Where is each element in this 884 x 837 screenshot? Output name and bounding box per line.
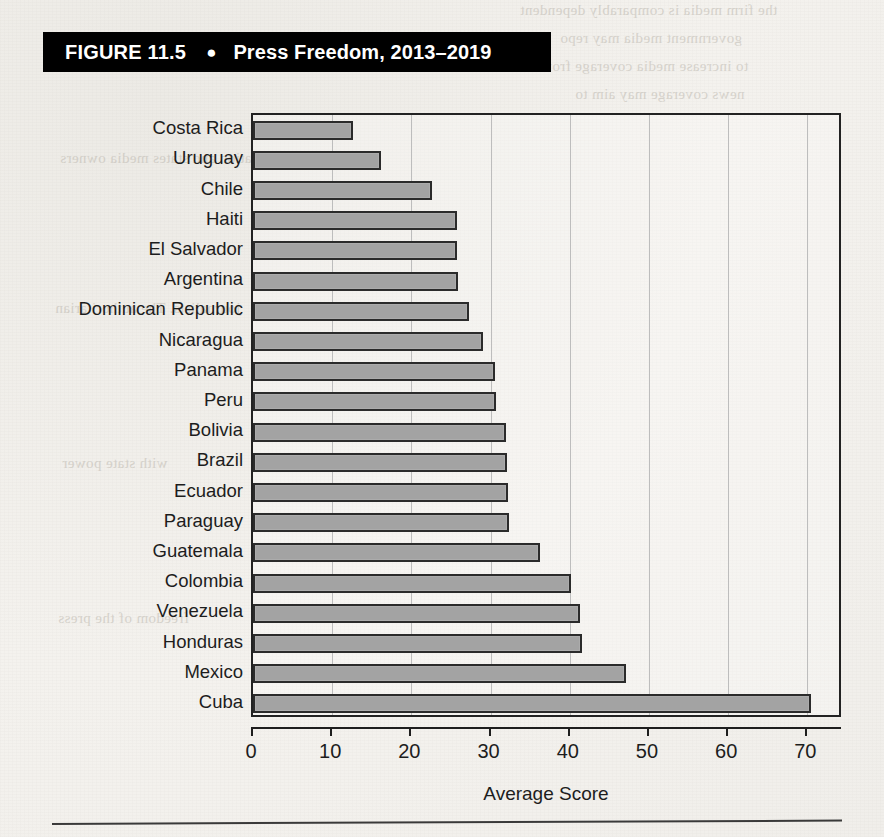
figure-number: FIGURE 11.5 (65, 41, 186, 64)
gridline-70 (807, 115, 808, 715)
x-tick-label-70: 70 (775, 740, 835, 763)
y-label-cuba: Cuba (3, 693, 243, 712)
x-tick-30 (489, 727, 491, 736)
x-tick-label-20: 20 (379, 740, 439, 763)
bar-row (253, 628, 582, 658)
bar-mexico[interactable] (253, 664, 626, 683)
y-label-bolivia: Bolivia (3, 421, 243, 440)
figure-page: the firm media is comparably dependent g… (0, 0, 884, 837)
figure-title-banner: FIGURE 11.5 ● Press Freedom, 2013–2019 (43, 32, 551, 72)
gridline-50 (649, 115, 650, 715)
y-label-peru: Peru (3, 391, 243, 410)
bar-row (253, 568, 571, 598)
bar-row (253, 387, 496, 417)
bar-guatemala[interactable] (253, 543, 540, 562)
bar-costa-rica[interactable] (253, 121, 353, 140)
x-tick-50 (647, 727, 649, 736)
bar-row (253, 508, 509, 538)
bar-row (253, 236, 457, 266)
bar-el-salvador[interactable] (253, 241, 457, 260)
bar-panama[interactable] (253, 362, 495, 381)
y-label-brazil: Brazil (3, 451, 243, 470)
bar-peru[interactable] (253, 392, 496, 411)
y-label-guatemala: Guatemala (3, 542, 243, 561)
bar-chart: Costa RicaUruguayChileHaitiEl SalvadorAr… (0, 0, 884, 837)
x-tick-label-50: 50 (617, 740, 677, 763)
bar-row (253, 417, 506, 447)
x-tick-label-0: 0 (221, 740, 281, 763)
bullet-icon: ● (206, 44, 216, 61)
y-label-mexico: Mexico (3, 663, 243, 682)
y-label-paraguay: Paraguay (3, 512, 243, 531)
bar-row (253, 477, 508, 507)
y-label-haiti: Haiti (3, 210, 243, 229)
bar-row (253, 115, 353, 145)
bar-row (253, 175, 432, 205)
bar-venezuela[interactable] (253, 604, 580, 623)
y-label-argentina: Argentina (3, 270, 243, 289)
bar-row (253, 538, 540, 568)
bar-row (253, 145, 381, 175)
bar-ecuador[interactable] (253, 483, 508, 502)
y-label-uruguay: Uruguay (3, 149, 243, 168)
bar-row (253, 689, 811, 719)
x-tick-label-40: 40 (538, 740, 598, 763)
x-tick-0 (251, 727, 253, 736)
bar-nicaragua[interactable] (253, 332, 483, 351)
bar-row (253, 598, 580, 628)
y-label-chile: Chile (3, 180, 243, 199)
gridline-60 (728, 115, 729, 715)
x-axis-line (251, 727, 841, 729)
x-tick-20 (409, 727, 411, 736)
y-label-ecuador: Ecuador (3, 482, 243, 501)
bar-row (253, 326, 483, 356)
bar-row (253, 357, 495, 387)
x-tick-label-10: 10 (300, 740, 360, 763)
bar-brazil[interactable] (253, 453, 507, 472)
bar-colombia[interactable] (253, 574, 571, 593)
x-axis-title: Average Score (251, 783, 841, 805)
y-label-costa-rica: Costa Rica (3, 119, 243, 138)
bar-honduras[interactable] (253, 634, 582, 653)
y-label-dominican-republic: Dominican Republic (3, 300, 243, 319)
x-tick-10 (330, 727, 332, 736)
bar-uruguay[interactable] (253, 151, 381, 170)
bar-dominican-republic[interactable] (253, 302, 469, 321)
bar-bolivia[interactable] (253, 423, 506, 442)
bar-cuba[interactable] (253, 694, 811, 713)
y-label-el-salvador: El Salvador (3, 240, 243, 259)
plot-area (251, 113, 841, 717)
x-tick-label-30: 30 (459, 740, 519, 763)
bar-row (253, 447, 507, 477)
y-label-panama: Panama (3, 361, 243, 380)
bar-row (253, 266, 458, 296)
bar-row (253, 296, 469, 326)
figure-title: Press Freedom, 2013–2019 (233, 41, 491, 64)
bar-haiti[interactable] (253, 211, 457, 230)
y-label-nicaragua: Nicaragua (3, 331, 243, 350)
x-tick-40 (568, 727, 570, 736)
bar-argentina[interactable] (253, 272, 458, 291)
y-label-colombia: Colombia (3, 572, 243, 591)
bar-row (253, 659, 626, 689)
x-tick-60 (726, 727, 728, 736)
bar-row (253, 206, 457, 236)
y-label-honduras: Honduras (3, 633, 243, 652)
y-label-venezuela: Venezuela (3, 602, 243, 621)
x-tick-70 (805, 727, 807, 736)
bar-chile[interactable] (253, 181, 432, 200)
bar-paraguay[interactable] (253, 513, 509, 532)
x-tick-label-60: 60 (696, 740, 756, 763)
y-axis-category-labels: Costa RicaUruguayChileHaitiEl SalvadorAr… (0, 113, 243, 717)
